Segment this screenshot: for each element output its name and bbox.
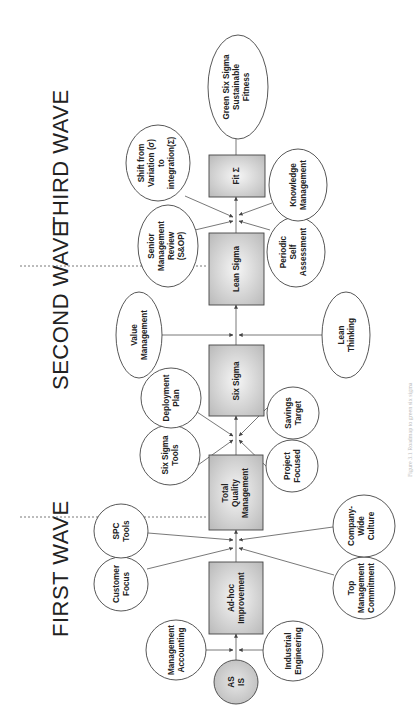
svg-text:Lean: Lean [337,325,346,344]
svg-text:Company-: Company- [347,506,356,546]
svg-text:Management: Management [157,221,166,271]
edge-knowledge-mgmt [239,203,272,215]
svg-text:Sustainable: Sustainable [232,64,241,110]
svg-text:Six Sigma: Six Sigma [161,435,170,475]
svg-text:Tools: Tools [122,520,131,542]
svg-text:Lean Sigma: Lean Sigma [232,246,241,292]
svg-text:Management: Management [241,468,250,518]
input-six-sigma-tools: Six Sigma Tools [140,425,200,485]
input-savings-target: Savings Target [267,387,319,439]
svg-text:Fit Σ: Fit Σ [232,167,241,184]
svg-text:Industrial: Industrial [284,633,293,670]
input-shift-variation-integration: Shift from Variation (σ) to integration(… [126,125,190,201]
svg-text:Periodic: Periodic [279,235,288,268]
edge-spc-tools [148,533,233,540]
svg-text:Accounting: Accounting [177,627,186,672]
svg-text:Plan: Plan [172,389,181,406]
svg-text:Culture: Culture [367,511,376,540]
svg-text:IS: IS [237,678,246,686]
input-periodic-self-assessment: Periodic Self Assessment [267,217,325,287]
svg-text:Knowledge: Knowledge [289,163,298,207]
node-as-is: AS IS [214,660,258,704]
svg-text:Tools: Tools [171,444,180,466]
node-green-six-sigma: Green Six Sigma Sustainable Fitness [208,35,268,139]
svg-text:Management: Management [357,563,366,613]
input-knowledge-management: Knowledge Management [269,149,327,221]
figure-caption: Figure 3.1 Roadmap to green six sigma [407,382,413,477]
input-management-accounting: Management Accounting [146,620,206,680]
input-top-management-commitment: Top Management Commitment [333,557,395,619]
wave-label-second: SECOND WAVE [48,222,73,390]
stage-total-quality-management: Total Quality Management [209,455,263,530]
svg-text:Ad-hoc: Ad-hoc [227,583,236,612]
edge-shift-variation [185,196,233,217]
svg-text:(S&OP): (S&OP) [177,231,186,260]
input-senior-management-review: Senior Management Review (S&OP) [138,205,198,287]
svg-text:Assessment: Assessment [299,228,308,277]
svg-text:Fitness: Fitness [242,72,251,101]
svg-text:Wide: Wide [357,516,366,536]
stage-lean-sigma: Lean Sigma [209,233,264,305]
svg-text:Commitment: Commitment [367,563,376,613]
svg-text:Management: Management [167,625,176,675]
input-project-focused: Project Focused [266,440,318,492]
svg-text:Management: Management [299,160,308,210]
svg-text:to: to [157,159,166,167]
input-value-management: Value Management [116,292,162,378]
svg-text:Top: Top [347,581,356,595]
svg-text:Target: Target [294,401,303,426]
stage-six-sigma: Six Sigma [209,345,264,416]
input-industrial-engineering: Industrial Engineering [263,621,323,681]
stage-fit-sigma: Fit Σ [209,155,265,197]
input-company-wide-culture: Company- Wide Culture [333,495,395,557]
svg-text:Shift from: Shift from [137,144,146,183]
svg-text:Thinking: Thinking [347,318,356,352]
wave-label-first: FIRST WAVE [48,500,73,637]
svg-text:Focus: Focus [122,572,131,597]
svg-text:Six Sigma: Six Sigma [232,361,241,401]
roadmap-diagram: FIRST WAVE SECOND WAVE THIRD WAVE AS IS … [0,0,417,727]
svg-text:Review: Review [167,231,176,260]
svg-text:Engineering: Engineering [294,627,303,674]
svg-text:Self: Self [289,244,298,259]
input-spc-tools: SPC Tools [94,504,148,558]
svg-text:Senior: Senior [147,232,156,258]
stage-adhoc-improvement: Ad-hoc Improvement [209,562,263,634]
edge-periodic-assess [239,221,270,230]
wave-label-third: THIRD WAVE [48,89,73,230]
svg-text:Savings: Savings [284,397,293,429]
svg-text:Improvement: Improvement [237,572,246,624]
input-lean-thinking: Lean Thinking [322,292,370,378]
edge-senior-review [195,221,233,230]
svg-text:Deployment: Deployment [162,374,171,421]
svg-text:SPC: SPC [112,522,121,539]
svg-text:AS: AS [227,676,236,688]
diagram-stage: FIRST WAVE SECOND WAVE THIRD WAVE AS IS … [0,0,417,727]
input-customer-focus: Customer Focus [94,557,148,611]
svg-text:Focused: Focused [293,449,302,483]
svg-text:Variation (σ): Variation (σ) [147,139,156,187]
svg-text:Customer: Customer [112,564,121,603]
svg-text:integration(Σ): integration(Σ) [167,136,176,189]
svg-text:Management: Management [140,310,149,360]
svg-text:Value: Value [130,324,139,346]
svg-text:Quality: Quality [231,479,240,507]
svg-text:Total: Total [221,484,230,503]
input-deployment-plan: Deployment Plan [141,368,201,428]
svg-text:Project: Project [283,452,292,480]
svg-text:Green Six Sigma: Green Six Sigma [222,54,231,120]
